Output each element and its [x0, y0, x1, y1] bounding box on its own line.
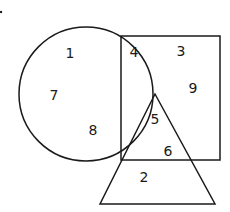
region-label-5: 5 — [151, 111, 160, 127]
corner-dot — [0, 11, 2, 13]
region-label-8: 8 — [89, 122, 98, 138]
region-label-2: 2 — [140, 169, 149, 185]
region-label-3: 3 — [177, 43, 186, 59]
region-label-4: 4 — [130, 44, 139, 60]
region-label-9: 9 — [189, 80, 198, 96]
region-label-6: 6 — [164, 143, 173, 159]
region-label-7: 7 — [50, 87, 59, 103]
venn-diagram: 1 7 8 4 3 9 5 6 2 — [0, 0, 230, 212]
region-label-1: 1 — [66, 45, 75, 61]
